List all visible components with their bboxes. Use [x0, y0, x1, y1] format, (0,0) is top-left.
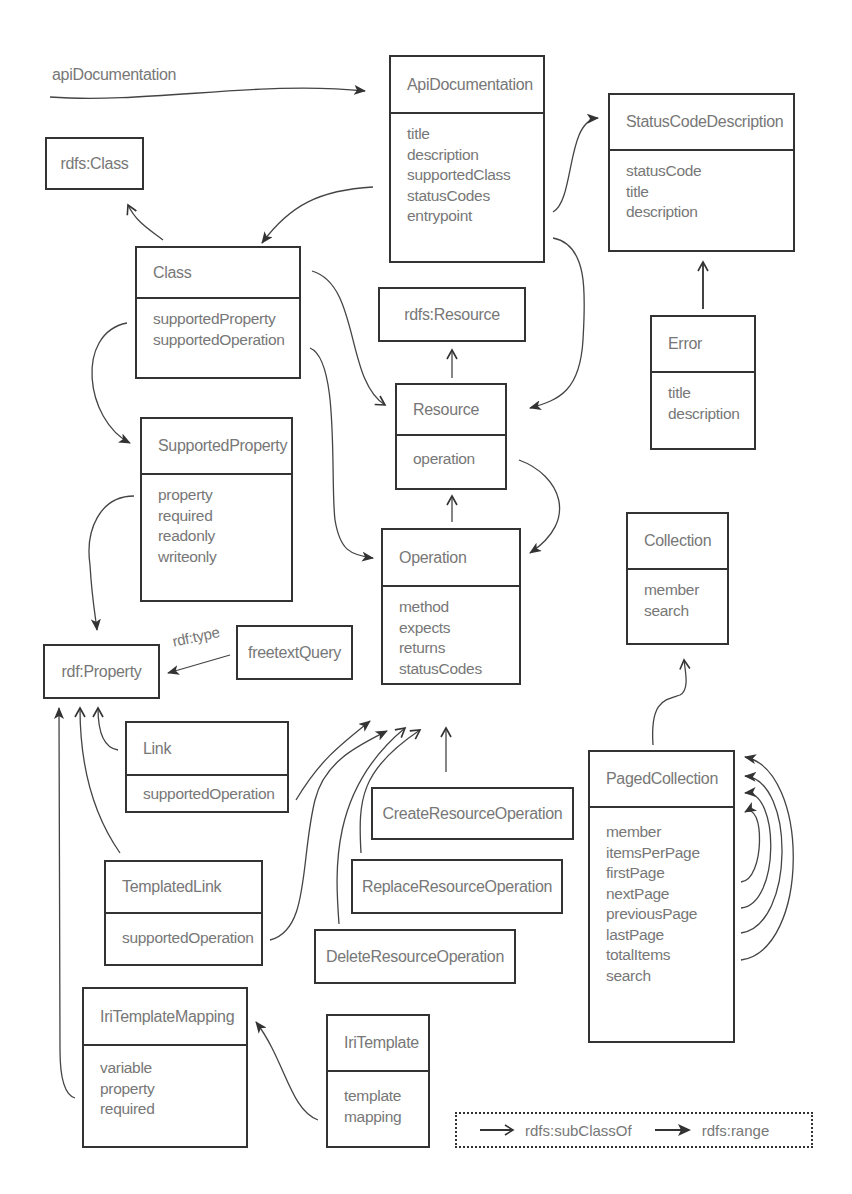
legend-item-subclassof: rdfs:subClassOf [479, 1122, 632, 1139]
class-title: PagedCollection [590, 752, 733, 808]
property: nextPage [606, 884, 733, 905]
class-title: Class [137, 248, 299, 299]
class-properties: supportedOperation [106, 914, 261, 949]
open-arrow-icon [479, 1124, 515, 1136]
class-properties: supportedProperty supportedOperation [137, 299, 299, 350]
property: supportedOperation [143, 784, 287, 805]
property: statusCodes [399, 659, 519, 680]
class-title: TemplatedLink [106, 862, 261, 914]
class-box-rdf-property[interactable]: rdf:Property [43, 644, 160, 699]
property: search [644, 601, 727, 622]
property: itemsPerPage [606, 843, 733, 864]
class-box-operation[interactable]: Operation method expects returns statusC… [381, 528, 521, 685]
class-properties: title description [652, 373, 754, 424]
class-title: ApiDocumentation [391, 57, 543, 114]
property: property [100, 1079, 246, 1100]
property: title [407, 124, 543, 145]
property: statusCodes [407, 186, 543, 207]
class-box-rdfs-resource[interactable]: rdfs:Resource [378, 287, 526, 342]
class-title: Link [127, 723, 287, 776]
property: member [606, 822, 733, 843]
hydra-vocabulary-diagram: apiDocumentation rdf:type ApiDocumentati… [0, 0, 852, 1194]
property: method [399, 597, 519, 618]
property: returns [399, 638, 519, 659]
property: title [626, 182, 793, 203]
class-properties: statusCode title description [610, 151, 793, 223]
class-properties: variable property required [84, 1046, 246, 1120]
property: supportedProperty [153, 309, 299, 330]
class-properties: operation [397, 436, 505, 470]
class-box-iritemplate[interactable]: IriTemplate template mapping [326, 1014, 430, 1148]
class-box-statuscodedescription[interactable]: StatusCodeDescription statusCode title d… [608, 93, 795, 252]
property: supportedOperation [153, 330, 299, 351]
legend-label-range: rdfs:range [702, 1122, 770, 1139]
entry-label: apiDocumentation [52, 66, 176, 84]
class-box-createresourceoperation[interactable]: CreateResourceOperation [371, 787, 574, 840]
class-properties: template mapping [328, 1072, 428, 1127]
class-properties: property required readonly writeonly [142, 475, 291, 567]
class-box-apidocumentation[interactable]: ApiDocumentation title description suppo… [389, 55, 545, 263]
legend-label-subclassof: rdfs:subClassOf [525, 1122, 632, 1139]
property: property [158, 485, 291, 506]
class-box-link[interactable]: Link supportedOperation [125, 721, 289, 813]
class-title: IriTemplate [328, 1016, 428, 1072]
property: expects [399, 618, 519, 639]
property: description [407, 145, 543, 166]
class-title: IriTemplateMapping [84, 989, 246, 1046]
legend: rdfs:subClassOf rdfs:range [455, 1112, 813, 1148]
property: mapping [344, 1107, 428, 1128]
class-title: Collection [628, 514, 727, 570]
class-box-replaceresourceoperation[interactable]: ReplaceResourceOperation [351, 859, 563, 914]
entry-arrow [50, 88, 365, 98]
class-title: Operation [383, 530, 519, 587]
class-title: Resource [397, 385, 505, 436]
class-box-supportedproperty[interactable]: SupportedProperty property required read… [140, 417, 293, 602]
class-box-resource[interactable]: Resource operation [395, 383, 507, 490]
rdf-type-label: rdf:type [171, 623, 221, 650]
property: previousPage [606, 904, 733, 925]
filled-arrow-icon [654, 1124, 692, 1136]
class-properties: supportedOperation [127, 776, 287, 805]
property: entrypoint [407, 206, 543, 227]
property: operation [413, 449, 505, 470]
class-properties: method expects returns statusCodes [383, 587, 519, 679]
class-properties: member itemsPerPage firstPage nextPage p… [590, 808, 733, 986]
class-box-pagedcollection[interactable]: PagedCollection member itemsPerPage firs… [588, 750, 735, 1043]
class-box-error[interactable]: Error title description [650, 315, 756, 450]
property: required [158, 506, 291, 527]
class-box-class[interactable]: Class supportedProperty supportedOperati… [135, 246, 301, 379]
property: supportedClass [407, 165, 543, 186]
property: search [606, 966, 733, 987]
class-properties: member search [628, 570, 727, 621]
class-box-rdfs-class[interactable]: rdfs:Class [45, 137, 144, 190]
property: statusCode [626, 161, 793, 182]
property: lastPage [606, 925, 733, 946]
property: template [344, 1086, 428, 1107]
class-box-templatedlink[interactable]: TemplatedLink supportedOperation [104, 860, 263, 966]
property: variable [100, 1058, 246, 1079]
instance-box-freetextquery[interactable]: freetextQuery [236, 625, 353, 680]
property: description [626, 202, 793, 223]
class-title: Error [652, 317, 754, 373]
class-title: SupportedProperty [142, 419, 291, 475]
property: readonly [158, 526, 291, 547]
property: required [100, 1099, 246, 1120]
class-title: StatusCodeDescription [610, 95, 793, 151]
property: totalItems [606, 945, 733, 966]
class-properties: title description supportedClass statusC… [391, 114, 543, 227]
property: member [644, 580, 727, 601]
property: firstPage [606, 863, 733, 884]
class-box-iritemplatemapping[interactable]: IriTemplateMapping variable property req… [82, 987, 248, 1148]
property: title [668, 383, 754, 404]
class-box-deleteresourceoperation[interactable]: DeleteResourceOperation [314, 929, 516, 984]
property: writeonly [158, 547, 291, 568]
class-box-collection[interactable]: Collection member search [626, 512, 729, 645]
legend-item-range: rdfs:range [654, 1122, 770, 1139]
property: supportedOperation [122, 928, 261, 949]
property: description [668, 404, 754, 425]
